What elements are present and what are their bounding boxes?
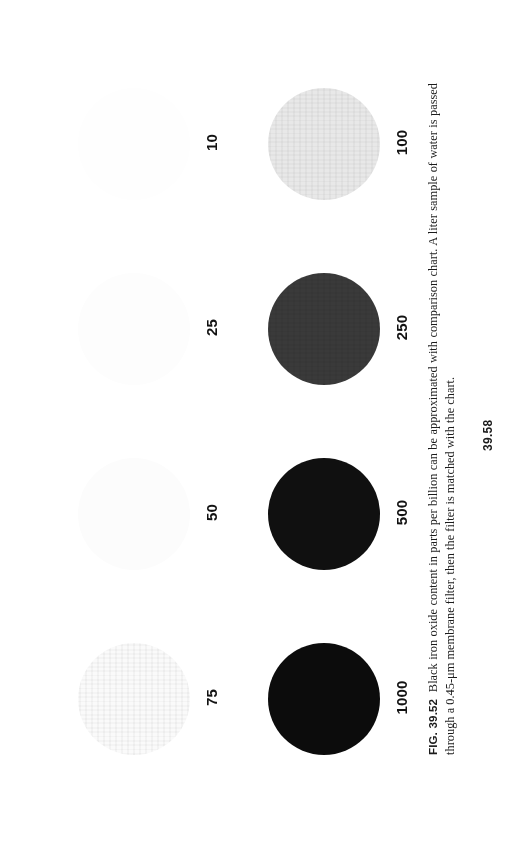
disc-label-50: 50	[203, 455, 220, 570]
disc-cell-250	[268, 270, 383, 385]
disc-label-1000: 1000	[393, 640, 410, 755]
disc-label-250: 250	[393, 270, 410, 385]
filter-disc-500	[268, 458, 380, 570]
filter-disc-100	[268, 88, 380, 200]
disc-cell-75	[78, 640, 193, 755]
low-concentration-row	[78, 0, 193, 859]
disc-label-75: 75	[203, 640, 220, 755]
figure-caption-text: Black iron oxide content in parts per bi…	[426, 83, 457, 755]
disc-cell-1000	[268, 640, 383, 755]
caption-gap	[426, 692, 440, 699]
disc-grain-texture	[268, 273, 380, 385]
disc-label-100: 100	[393, 85, 410, 200]
disc-cell-500	[268, 455, 383, 570]
filter-disc-250	[268, 273, 380, 385]
high-concentration-row	[268, 0, 383, 859]
filter-disc-25	[78, 273, 190, 385]
scanned-page: 10 25 50 75	[0, 0, 522, 859]
filter-disc-75	[78, 643, 190, 755]
rotated-page-content: 10 25 50 75	[0, 0, 522, 859]
disc-cell-50	[78, 455, 193, 570]
disc-label-10: 10	[203, 85, 220, 200]
disc-grain-texture	[268, 88, 380, 200]
filter-disc-50	[78, 458, 190, 570]
filter-disc-1000	[268, 643, 380, 755]
disc-label-500: 500	[393, 455, 410, 570]
disc-cell-100	[268, 85, 383, 200]
filter-disc-10	[78, 88, 190, 200]
disc-cell-10	[78, 85, 193, 200]
disc-label-25: 25	[203, 270, 220, 385]
disc-grain-texture	[78, 643, 190, 755]
disc-cell-25	[78, 270, 193, 385]
page-number: 39.58	[481, 419, 495, 451]
figure-caption: FIG. 39.52 Black iron oxide content in p…	[425, 83, 458, 755]
figure-number: FIG. 39.52	[426, 699, 439, 755]
